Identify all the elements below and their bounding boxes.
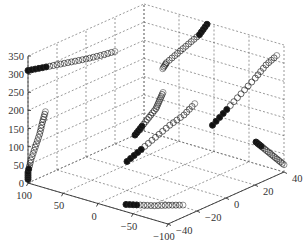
z-tick-label: 200: [8, 105, 24, 116]
marker-circle: [234, 95, 240, 101]
z-tick-label: 350: [8, 51, 24, 62]
marker-circle: [108, 49, 114, 55]
grid-lines: [28, 4, 284, 224]
z-tick-label: 0: [19, 178, 24, 189]
x-tick-label: 100: [16, 190, 32, 201]
marker-circle: [224, 107, 230, 113]
x-tick: [27, 183, 29, 186]
scatter3d-chart: 100500−50−100−40−20020400501001502002503…: [0, 0, 308, 244]
x-tick: [132, 214, 134, 217]
marker-circle: [249, 79, 255, 85]
y-tick: [284, 172, 287, 174]
y-tick-label: 20: [263, 186, 274, 197]
marker-circle: [227, 103, 233, 109]
axes-frame: [27, 56, 288, 227]
y-tick: [255, 185, 258, 187]
marker-circle: [245, 83, 251, 89]
floor-grid-y: [86, 157, 226, 198]
x-tick: [62, 193, 64, 196]
x-tick: [97, 204, 99, 207]
x-tick-label: 50: [54, 200, 65, 211]
marker-circle: [231, 99, 237, 105]
y-tick-label: −20: [205, 212, 221, 223]
x-tick: [167, 224, 169, 227]
z-tick-label: 250: [8, 87, 24, 98]
z-tick-label: 50: [14, 160, 25, 171]
marker-circle: [238, 91, 244, 97]
data-markers: [25, 21, 287, 208]
y-tick: [226, 198, 229, 200]
y-tick-label: 40: [292, 173, 303, 184]
marker-circle: [180, 202, 186, 208]
y-tick: [197, 211, 200, 213]
z-tick-label: 100: [8, 142, 24, 153]
z-tick-label: 300: [8, 69, 24, 80]
y-tick-label: −40: [176, 225, 192, 236]
x-tick-label: −50: [121, 221, 137, 232]
y-tick-label: 0: [234, 199, 239, 210]
z-tick-label: 150: [8, 124, 24, 135]
x-tick-label: −100: [153, 231, 175, 242]
x-tick-label: 0: [91, 211, 96, 222]
y-tick: [168, 224, 171, 226]
